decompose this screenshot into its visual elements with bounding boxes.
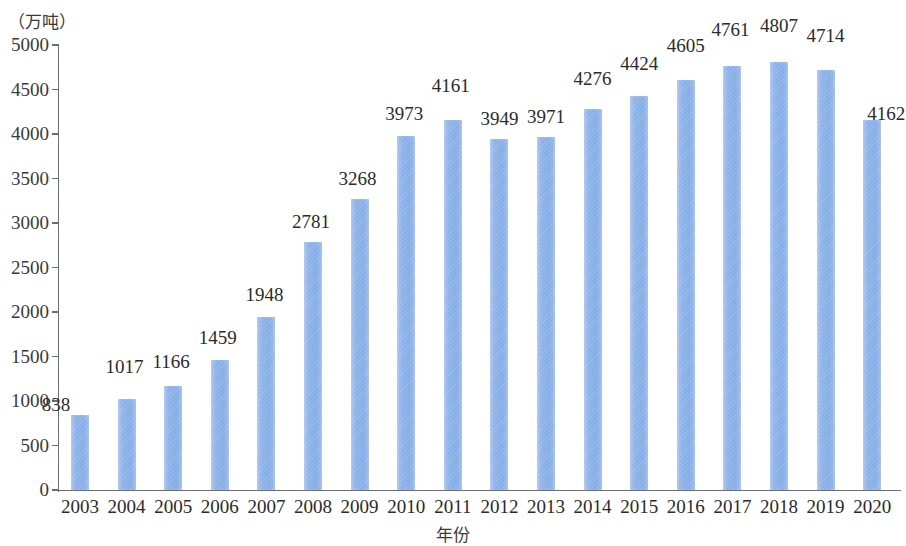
x-axis-tick-label: 2019 [801, 496, 851, 518]
x-axis-tick-label: 2015 [614, 496, 664, 518]
bar [537, 137, 555, 490]
x-axis-tick-label: 2004 [102, 496, 152, 518]
x-axis-tick-label: 2011 [428, 496, 478, 518]
x-axis-tick-label: 2016 [661, 496, 711, 518]
x-axis-tick-label: 2012 [474, 496, 524, 518]
x-axis-tick-label: 2005 [148, 496, 198, 518]
y-axis-unit-label: （万吨） [8, 8, 76, 33]
y-axis-tick-label-wrap: 3500 [0, 169, 49, 188]
y-axis-tick-label-wrap: 0 [0, 480, 49, 499]
bar-value-label: 4161 [423, 76, 479, 95]
y-axis-tick [52, 222, 59, 223]
y-axis-tick-label: 0 [1, 480, 49, 499]
bar-chart: （万吨） 50004500400035003000250020001500100… [0, 0, 906, 546]
y-axis-tick-label: 500 [1, 436, 49, 455]
bar [211, 360, 229, 490]
y-axis-tick-label-wrap: 3000 [0, 213, 49, 232]
bar-value-label: 1459 [190, 328, 246, 347]
y-axis-tick [52, 178, 59, 179]
y-axis-tick-label-wrap: 4500 [0, 80, 49, 99]
bar [118, 399, 136, 490]
y-axis-tick-label: 5000 [1, 35, 49, 54]
bar [770, 62, 788, 490]
bar [304, 242, 322, 490]
y-axis-tick-label-wrap: 1500 [0, 347, 49, 366]
bar [863, 120, 881, 490]
bar [397, 136, 415, 490]
y-axis-tick [52, 89, 59, 90]
bar-value-label: 1166 [143, 352, 199, 371]
bar-value-label: 838 [28, 395, 84, 414]
bar-value-label: 3268 [330, 169, 386, 188]
bar [817, 70, 835, 490]
y-axis-tick-label-wrap: 5000 [0, 35, 49, 54]
bar-value-label: 4424 [611, 54, 667, 73]
x-axis-title: 年份 [0, 521, 906, 546]
y-axis-tick-label: 2500 [1, 258, 49, 277]
x-axis-line [58, 490, 901, 491]
y-axis-tick-label-wrap: 4000 [0, 124, 49, 143]
y-axis-tick-label: 3000 [1, 213, 49, 232]
y-axis-tick-label: 3500 [1, 169, 49, 188]
x-axis-tick-label: 2007 [241, 496, 291, 518]
x-axis-tick-label: 2014 [568, 496, 618, 518]
bar [677, 80, 695, 490]
bar-value-label: 3973 [376, 104, 432, 123]
x-axis-tick-label: 2006 [195, 496, 245, 518]
bar [444, 120, 462, 490]
y-axis-tick-label-wrap: 2000 [0, 302, 49, 321]
x-axis-tick-label: 2017 [707, 496, 757, 518]
bar-value-label: 1948 [236, 285, 292, 304]
bar-value-label: 4162 [858, 104, 906, 123]
bar [723, 66, 741, 490]
bar [584, 109, 602, 490]
y-axis-tick [52, 445, 59, 446]
y-axis-tick-label: 4500 [1, 80, 49, 99]
y-axis-tick [52, 44, 59, 45]
bar-value-label: 2781 [283, 212, 339, 231]
bar [490, 139, 508, 490]
x-axis-tick-label: 2013 [521, 496, 571, 518]
bar-value-label: 3971 [518, 107, 574, 126]
bar [630, 96, 648, 490]
y-axis-tick-label: 1500 [1, 347, 49, 366]
bar [351, 199, 369, 490]
y-axis-tick [52, 356, 59, 357]
x-axis-tick-label: 2010 [381, 496, 431, 518]
y-axis-tick [52, 311, 59, 312]
y-axis-tick [52, 267, 59, 268]
y-axis-tick-label: 4000 [1, 124, 49, 143]
x-axis-tick-label: 2020 [847, 496, 897, 518]
bar [71, 415, 89, 490]
bar [257, 317, 275, 490]
bar-value-label: 4761 [702, 20, 758, 39]
y-axis-tick-label-wrap: 2500 [0, 258, 49, 277]
bar-value-label: 4714 [798, 26, 854, 45]
bar [164, 386, 182, 490]
x-axis-tick-label: 2018 [754, 496, 804, 518]
y-axis-tick [52, 489, 59, 490]
x-axis-tick-label: 2003 [55, 496, 105, 518]
y-axis-tick-label-wrap: 500 [0, 436, 49, 455]
x-axis-tick-label: 2009 [335, 496, 385, 518]
y-axis-tick-label: 2000 [1, 302, 49, 321]
y-axis-tick [52, 133, 59, 134]
x-axis-tick-label: 2008 [288, 496, 338, 518]
